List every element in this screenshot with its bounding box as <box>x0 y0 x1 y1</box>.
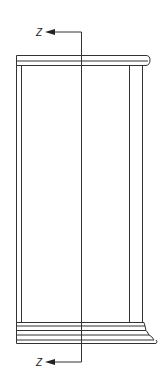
elevation-drawing: Z Z <box>0 0 164 378</box>
section-arrow-top-icon <box>45 29 55 35</box>
section-label-bottom: Z <box>35 357 43 368</box>
section-arrow-bottom-icon <box>45 359 55 365</box>
section-line <box>54 32 82 362</box>
body-panel <box>17 66 143 323</box>
base-plinth <box>17 322 158 344</box>
section-label-top: Z <box>35 27 43 38</box>
